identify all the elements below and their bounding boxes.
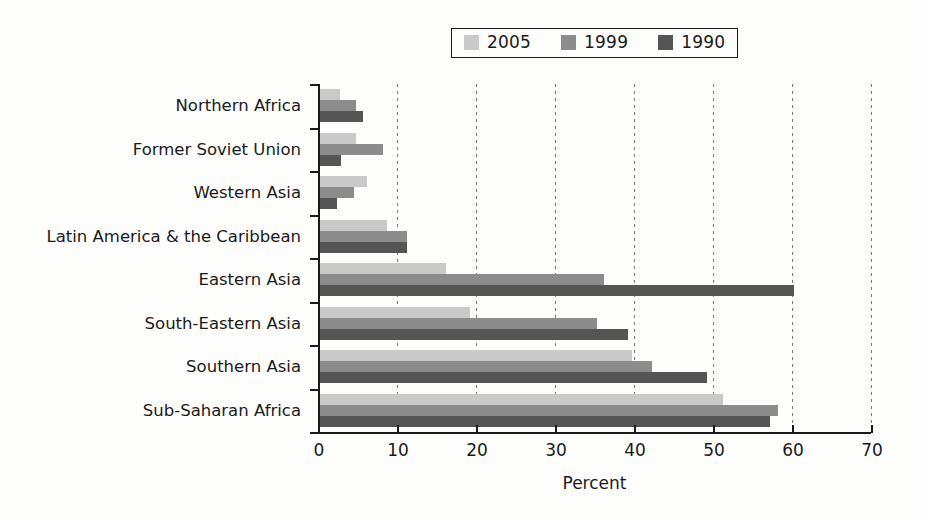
bar-1999 xyxy=(320,231,407,242)
category-axis-tick xyxy=(310,302,319,304)
legend-label-2005: 2005 xyxy=(487,34,531,51)
category-label: Former Soviet Union xyxy=(0,128,310,172)
bar-group xyxy=(320,302,927,346)
bar-2005 xyxy=(320,394,723,405)
bar-2005 xyxy=(320,176,367,187)
legend-label-1999: 1999 xyxy=(584,34,628,51)
bar-1999 xyxy=(320,318,597,329)
category-label: South-Eastern Asia xyxy=(0,302,310,346)
category-axis-tick xyxy=(310,128,319,130)
bar-group xyxy=(320,345,927,389)
bar-group xyxy=(320,215,927,259)
x-axis-title: Percent xyxy=(318,473,871,493)
x-axis-tick xyxy=(792,425,794,433)
legend-swatch-2005 xyxy=(464,35,479,50)
bar-1990 xyxy=(320,155,341,166)
x-axis-tick-label: 70 xyxy=(861,440,883,460)
bar-1990 xyxy=(320,285,794,296)
bar-2005 xyxy=(320,133,356,144)
x-axis-tick-label: 40 xyxy=(624,440,646,460)
category-axis-tick xyxy=(310,345,319,347)
x-axis-tick-label: 20 xyxy=(466,440,488,460)
category-axis-tick xyxy=(310,84,319,86)
x-axis-tick-label: 10 xyxy=(387,440,409,460)
x-axis-tick-label: 30 xyxy=(545,440,567,460)
bar-1999 xyxy=(320,274,604,285)
x-axis-tick xyxy=(713,425,715,433)
category-label: Southern Asia xyxy=(0,345,310,389)
bar-2005 xyxy=(320,263,446,274)
bar-2005 xyxy=(320,307,470,318)
bar-1990 xyxy=(320,242,407,253)
bar-1999 xyxy=(320,361,652,372)
category-axis-tick xyxy=(310,171,319,173)
category-axis-labels: Northern AfricaFormer Soviet UnionWester… xyxy=(0,84,310,432)
bar-group xyxy=(320,171,927,215)
bar-group xyxy=(320,84,927,128)
bars-container xyxy=(320,84,927,432)
plot-area: Northern AfricaFormer Soviet UnionWester… xyxy=(0,84,927,434)
x-axis-tick xyxy=(397,425,399,433)
category-axis-tick xyxy=(310,258,319,260)
x-axis-tick-label: 50 xyxy=(703,440,725,460)
x-axis-tick xyxy=(871,425,873,433)
bar-1990 xyxy=(320,416,770,427)
bar-1999 xyxy=(320,144,383,155)
x-axis-tick xyxy=(555,425,557,433)
x-axis-tick xyxy=(476,425,478,433)
category-label: Western Asia xyxy=(0,171,310,215)
bar-1990 xyxy=(320,372,707,383)
category-label: Northern Africa xyxy=(0,84,310,128)
category-label: Latin America & the Caribbean xyxy=(0,215,310,259)
legend-swatch-1999 xyxy=(561,35,576,50)
x-axis-tick-label: 60 xyxy=(782,440,804,460)
category-axis-tick xyxy=(310,215,319,217)
bar-group xyxy=(320,389,927,433)
bar-group xyxy=(320,128,927,172)
category-axis-tick xyxy=(310,389,319,391)
bar-chart: 2005 1999 1990 Northern AfricaFormer Sov… xyxy=(0,0,927,521)
chart-legend: 2005 1999 1990 xyxy=(451,28,738,58)
bar-1990 xyxy=(320,198,337,209)
legend-swatch-1990 xyxy=(658,35,673,50)
bar-1999 xyxy=(320,100,356,111)
bar-1990 xyxy=(320,111,363,122)
legend-entry-1990: 1990 xyxy=(658,34,725,51)
bar-2005 xyxy=(320,220,387,231)
bar-1999 xyxy=(320,187,354,198)
x-axis-tick xyxy=(318,425,320,433)
x-axis-tick-label: 0 xyxy=(314,440,325,460)
bar-1990 xyxy=(320,329,628,340)
category-label: Eastern Asia xyxy=(0,258,310,302)
legend-entry-2005: 2005 xyxy=(464,34,531,51)
bar-2005 xyxy=(320,89,340,100)
x-axis-line xyxy=(318,432,871,434)
bar-2005 xyxy=(320,350,632,361)
bar-1999 xyxy=(320,405,778,416)
legend-label-1990: 1990 xyxy=(681,34,725,51)
bar-group xyxy=(320,258,927,302)
x-axis-tick xyxy=(634,425,636,433)
legend-entry-1999: 1999 xyxy=(561,34,628,51)
category-label: Sub-Saharan Africa xyxy=(0,389,310,433)
